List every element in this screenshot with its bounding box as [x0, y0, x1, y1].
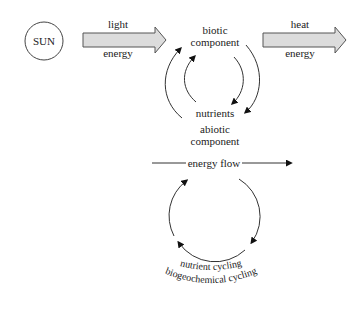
light-energy-label: energy: [98, 47, 138, 59]
abiotic-label: abiotic: [188, 123, 242, 135]
light-label: light: [100, 18, 136, 30]
energy-flow-label: energy flow: [186, 157, 242, 169]
cycle-arc-left: [169, 181, 186, 236]
heat-energy-label: energy: [280, 47, 320, 59]
abiotic-component-label: component: [180, 135, 250, 147]
sun-label: SUN: [25, 35, 63, 47]
component-label: component: [180, 36, 250, 48]
cycle-arc-right: [239, 179, 260, 242]
biotic-label: biotic: [190, 24, 240, 36]
outer-down-arrow: [246, 45, 260, 112]
inner-up-arrow: [184, 57, 196, 102]
outer-up-arrow: [165, 49, 182, 118]
nutrient-cycling-label: nutrient cycling: [179, 257, 242, 272]
nutrients-label: nutrients: [185, 107, 245, 119]
heat-label: heat: [282, 18, 318, 30]
inner-down-arrow: [233, 57, 243, 103]
